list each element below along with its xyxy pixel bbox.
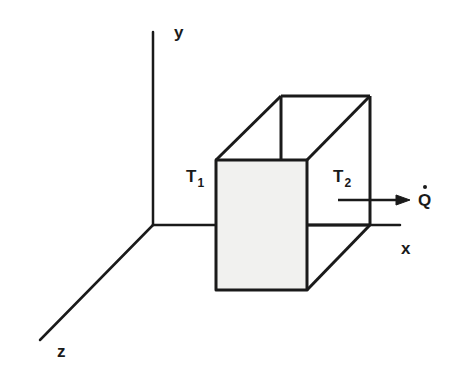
dot-accent-icon <box>423 185 427 189</box>
x-label-text: x <box>401 239 410 258</box>
box-front-face <box>216 160 307 290</box>
t1-subscript: 1 <box>197 176 204 190</box>
y-axis-label: y <box>174 24 183 41</box>
t1-label: T1 <box>186 168 204 185</box>
t1-main: T <box>186 167 196 186</box>
box-depth-bottom-right <box>307 225 370 290</box>
heat-conduction-diagram: y x z T1 T2 Q <box>0 0 460 375</box>
t2-subscript: 2 <box>344 176 351 190</box>
box-depth-top-left <box>216 96 281 160</box>
q-dot: Q <box>418 192 431 209</box>
diagram-graphic <box>0 0 460 375</box>
heat-flow-arrow-head <box>396 195 410 205</box>
y-label-text: y <box>174 23 183 42</box>
heat-flow-label: Q <box>418 192 431 209</box>
t2-main: T <box>333 167 343 186</box>
z-axis-label: z <box>57 343 66 360</box>
z-label-text: z <box>57 342 66 361</box>
q-text: Q <box>418 191 431 210</box>
z-axis <box>40 225 153 340</box>
t2-label: T2 <box>333 168 351 185</box>
box-depth-top-right <box>307 96 370 160</box>
x-axis-label: x <box>401 240 410 257</box>
